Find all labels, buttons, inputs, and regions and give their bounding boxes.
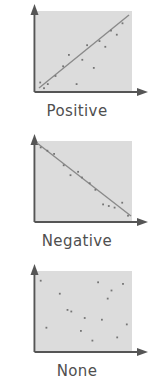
scatter-point	[47, 150, 49, 152]
scatter-point	[99, 40, 101, 42]
no-correlation-panel: None	[0, 260, 154, 379]
scatter-point	[55, 75, 57, 77]
x-axis-arrowhead	[137, 218, 148, 226]
scatter-point	[102, 204, 104, 206]
scatter-point	[53, 153, 55, 155]
scatter-point	[108, 205, 110, 207]
scatter-point	[122, 283, 124, 285]
scatter-point	[47, 83, 49, 85]
none-panel-label: None	[0, 364, 154, 379]
scatter-point	[116, 34, 118, 36]
scatter-point	[68, 54, 70, 56]
scatter-point	[76, 83, 78, 85]
y-axis-arrowhead	[31, 264, 39, 275]
scatter-point	[114, 207, 116, 209]
scatter-point	[81, 177, 83, 179]
scatter-point	[93, 67, 95, 69]
scatter-point	[121, 202, 123, 204]
y-axis-arrowhead	[31, 4, 39, 15]
scatter-point	[80, 330, 82, 332]
scatter-point	[40, 147, 42, 149]
scatter-point	[126, 324, 128, 326]
scatter-point	[104, 46, 106, 48]
scatter-point	[67, 309, 69, 311]
plot-area-background	[36, 271, 132, 352]
scatter-point	[122, 22, 124, 24]
scatter-point	[89, 182, 91, 184]
scatter-point	[86, 44, 88, 46]
scatter-point	[77, 171, 79, 173]
negative-panel-label: Negative	[0, 234, 154, 249]
scatter-point	[81, 59, 83, 61]
scatter-point	[70, 311, 72, 313]
positive-scatter-plot	[0, 0, 154, 100]
scatter-point	[92, 340, 94, 342]
correlation-types-figure: Positive	[0, 0, 154, 387]
positive-panel-label: Positive	[0, 104, 154, 119]
scatter-point	[43, 87, 45, 89]
scatter-point	[40, 280, 42, 282]
scatter-point	[95, 189, 97, 191]
scatter-point	[107, 298, 109, 300]
negative-scatter-plot	[0, 130, 154, 230]
scatter-point	[46, 327, 48, 329]
scatter-point	[101, 319, 103, 321]
negative-correlation-panel: Negative	[0, 130, 154, 249]
scatter-point	[59, 293, 61, 295]
x-axis-arrowhead	[137, 348, 148, 356]
scatter-point	[97, 281, 99, 283]
scatter-point	[84, 317, 86, 319]
none-scatter-plot	[0, 260, 154, 360]
scatter-point	[39, 82, 41, 84]
scatter-point	[111, 290, 113, 292]
scatter-point	[63, 164, 65, 166]
scatter-point	[127, 215, 129, 217]
positive-correlation-panel: Positive	[0, 0, 154, 119]
scatter-point	[110, 30, 112, 32]
scatter-point	[70, 174, 72, 176]
scatter-point	[116, 337, 118, 339]
scatter-point	[62, 65, 64, 67]
x-axis-arrowhead	[137, 88, 148, 96]
